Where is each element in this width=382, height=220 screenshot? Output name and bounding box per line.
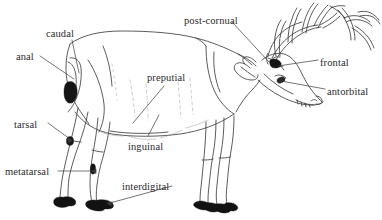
label-interdigital: interdigital (122, 182, 169, 193)
frontal-leader (278, 60, 318, 66)
preputial-leader (133, 86, 164, 123)
hoof-markers (54, 197, 238, 213)
anal-gland-patch (64, 81, 77, 103)
label-tarsal: tarsal (14, 120, 37, 131)
label-anal: anal (16, 52, 34, 63)
deer-gland-diagram: caudal anal post-cornual frontal antorbi… (0, 0, 382, 220)
deer-body-outline (60, 3, 380, 206)
label-frontal: frontal (320, 58, 349, 69)
post-cornual-gland-patch (270, 59, 281, 68)
caudal-leader (72, 40, 79, 73)
label-metatarsal: metatarsal (5, 167, 49, 178)
label-caudal: caudal (46, 29, 74, 40)
label-post-cornual: post-cornual (184, 16, 238, 27)
anal-leader (40, 56, 74, 79)
post-cornual-leader (232, 22, 269, 62)
label-antorbital: antorbital (327, 87, 368, 98)
antorbital-leader (281, 81, 325, 89)
label-inguinal: inguinal (128, 142, 163, 153)
label-preputial: preputial (147, 73, 185, 84)
tarsal-leader (48, 123, 70, 139)
